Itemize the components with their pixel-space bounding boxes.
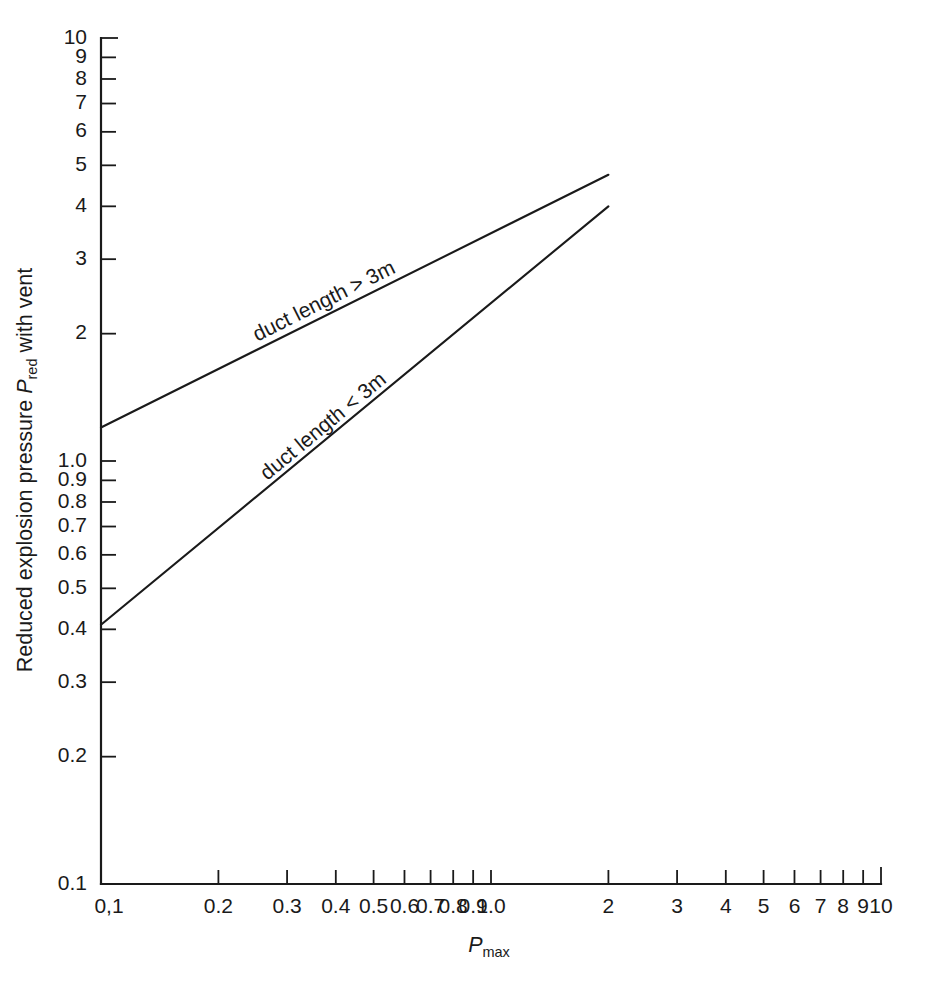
x-tick-label: 0.2 xyxy=(204,894,233,917)
y-tick-label: 2 xyxy=(75,320,87,343)
y-axis-ticks xyxy=(101,38,118,884)
x-tick-label: 9 xyxy=(857,894,869,917)
y-tick-labels: 0.10.20.30.40.50.60.70.80.91.02345678910 xyxy=(58,25,88,894)
x-tick-label: 0.5 xyxy=(359,894,388,917)
y-tick-label: 0.8 xyxy=(58,489,87,512)
y-tick-label: 1.0 xyxy=(58,448,87,471)
x-tick-label: 7 xyxy=(815,894,827,917)
y-tick-label: 0.2 xyxy=(58,743,87,766)
x-axis-ticks xyxy=(101,867,881,884)
x-tick-labels: 0,10.20.30.40.50.60.70.80.91.02345678910 xyxy=(94,894,892,917)
x-tick-label: 5 xyxy=(758,894,770,917)
x-axis-title: Pmax xyxy=(468,933,510,960)
svg-text:Pmax: Pmax xyxy=(468,933,510,960)
y-axis-title-main: Reduced explosion pressure xyxy=(13,394,37,672)
y-tick-label: 0.7 xyxy=(58,513,87,536)
y-tick-label: 0.3 xyxy=(58,669,87,692)
series-line-1 xyxy=(101,206,608,624)
y-tick-label: 10 xyxy=(64,25,87,48)
x-tick-label: 10 xyxy=(869,894,892,917)
x-axis-title-subscript: max xyxy=(482,944,510,960)
x-tick-label: 1.0 xyxy=(476,894,505,917)
svg-text:Reduced explosion pressure Pre: Reduced explosion pressure Pred with ven… xyxy=(13,268,40,673)
y-axis-title-subscript: red xyxy=(24,359,40,380)
x-tick-label: 3 xyxy=(671,894,683,917)
y-axis-title-symbol: P xyxy=(13,379,37,394)
axis-lines xyxy=(101,38,881,884)
y-tick-label: 3 xyxy=(75,246,87,269)
x-tick-label: 0.3 xyxy=(272,894,301,917)
y-tick-label: 4 xyxy=(75,193,87,216)
series-label-duct-length-gt-3m: duct length > 3m xyxy=(249,255,399,345)
x-tick-label: 8 xyxy=(837,894,849,917)
y-tick-label: 6 xyxy=(75,118,87,141)
x-tick-label: 2 xyxy=(603,894,615,917)
y-tick-label: 0.6 xyxy=(58,541,87,564)
x-tick-label: 4 xyxy=(720,894,732,917)
y-tick-label: 5 xyxy=(75,152,87,175)
y-axis-title-tail: with vent xyxy=(13,268,37,359)
x-axis-title-symbol: P xyxy=(468,933,483,957)
x-tick-label: 6 xyxy=(789,894,801,917)
y-tick-label: 7 xyxy=(75,90,87,113)
y-tick-label: 0.5 xyxy=(58,575,87,598)
x-tick-label: 0,1 xyxy=(94,894,123,917)
x-tick-label: 0.6 xyxy=(390,894,419,917)
series-label-duct-length-lt-3m: duct length < 3m xyxy=(255,367,390,484)
y-tick-label: 0.4 xyxy=(58,616,88,639)
y-axis-title: Reduced explosion pressure Pred with ven… xyxy=(13,268,40,673)
loglog-chart: 0.10.20.30.40.50.60.70.80.91.02345678910… xyxy=(0,0,931,991)
x-tick-label: 0.4 xyxy=(321,894,351,917)
y-tick-label: 0.1 xyxy=(58,871,87,894)
chart-container: 0.10.20.30.40.50.60.70.80.91.02345678910… xyxy=(0,0,931,991)
y-tick-label: 8 xyxy=(75,66,87,89)
